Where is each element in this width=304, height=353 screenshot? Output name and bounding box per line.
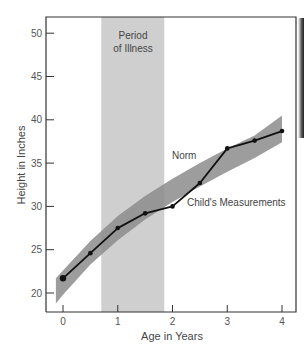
x-axis-title: Age in Years	[141, 330, 203, 342]
data-point-marker	[280, 129, 285, 134]
data-point-marker	[115, 226, 120, 231]
data-point-marker	[143, 211, 148, 216]
data-point-marker	[170, 204, 175, 209]
data-point-marker	[225, 146, 230, 151]
data-point-marker	[60, 275, 66, 281]
height-growth-chart: 01234 20253035404550 Period of Illness N…	[0, 0, 304, 353]
illness-label-line2: of Illness	[113, 43, 152, 54]
x-tick-label: 4	[279, 316, 285, 327]
illness-shaded-rect	[101, 17, 164, 312]
norm-label: Norm	[172, 150, 196, 161]
y-axis: 20253035404550	[31, 28, 54, 299]
illness-region	[101, 17, 164, 312]
x-axis: 01234	[60, 305, 285, 327]
x-tick-label: 3	[224, 316, 230, 327]
y-tick-label: 35	[31, 158, 43, 169]
x-tick-label: 1	[115, 316, 121, 327]
data-point-marker	[198, 181, 203, 186]
y-tick-label: 25	[31, 244, 43, 255]
y-tick-label: 50	[31, 28, 43, 39]
norm-band-area	[56, 116, 282, 304]
y-axis-title: Height in Inches	[15, 125, 27, 204]
data-point-marker	[252, 138, 257, 143]
norm-band	[56, 116, 282, 304]
x-tick-label: 2	[170, 316, 176, 327]
data-point-marker	[88, 251, 93, 256]
y-tick-label: 40	[31, 114, 43, 125]
y-tick-label: 30	[31, 201, 43, 212]
y-tick-label: 45	[31, 71, 43, 82]
page-binding-edge	[298, 18, 304, 138]
illness-label-line1: Period	[119, 30, 148, 41]
x-tick-label: 0	[60, 316, 66, 327]
y-tick-label: 20	[31, 288, 43, 299]
child-measurements-label: Child's Measurements	[187, 197, 286, 208]
